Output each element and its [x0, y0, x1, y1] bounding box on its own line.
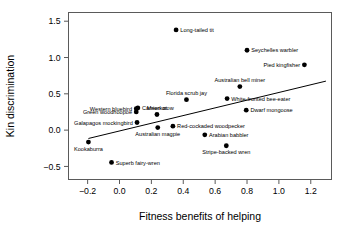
data-point: [225, 96, 230, 101]
data-point: [155, 112, 160, 117]
data-point: [202, 132, 207, 137]
data-point-label: Australian magpie: [135, 131, 180, 137]
x-tick-label: 0.4: [177, 186, 189, 196]
data-point-label: Stripe-backed wren: [202, 149, 250, 155]
y-tick-label: 0.5: [48, 89, 60, 99]
data-point-label: Long-tailed tit: [180, 27, 214, 33]
x-axis-label: Fitness benefits of helping: [139, 210, 261, 222]
data-point: [184, 97, 189, 102]
data-point-label: White-fronted bee-eater: [231, 96, 290, 102]
data-point-label: Green woodhoopoe: [83, 109, 132, 115]
data-point-label: Seychelles warbler: [251, 47, 298, 53]
data-point: [237, 84, 242, 89]
data-point-label: Pied kingfisher: [263, 62, 300, 68]
y-axis-label: Kin discrimination: [4, 55, 16, 137]
data-point: [135, 120, 140, 125]
data-point: [224, 143, 229, 148]
data-point-label: Dwarf mongoose: [250, 107, 292, 113]
y-tick-label: 1.0: [48, 53, 60, 63]
x-tick-label: 0.0: [113, 186, 125, 196]
data-point-label: Arabian babbler: [209, 132, 249, 138]
x-tick-label: 1.0: [273, 186, 285, 196]
data-point: [174, 28, 179, 33]
data-point: [134, 110, 139, 115]
y-tick-label: −0.5: [43, 162, 60, 172]
data-point: [109, 160, 114, 165]
data-point-label: Galapagos mockingbird: [74, 120, 133, 126]
y-tick-label: 1.5: [48, 16, 60, 26]
x-tick-label: 0.8: [241, 186, 253, 196]
data-point-label: Kookaburra: [74, 146, 104, 152]
data-point: [302, 62, 307, 67]
x-tick-label: 0.2: [145, 186, 157, 196]
data-point-label: Superb fairy-wren: [116, 160, 160, 166]
x-tick-label: −0.2: [79, 186, 96, 196]
data-point: [245, 48, 250, 53]
data-point: [155, 125, 160, 130]
data-point-label: Red-cockaded woodpecker: [177, 123, 245, 129]
data-point-label: Florida scrub jay: [166, 90, 207, 96]
data-point: [244, 108, 249, 113]
y-tick-label: 0.0: [48, 125, 60, 135]
x-tick-label: 0.6: [209, 186, 221, 196]
data-point: [171, 124, 176, 129]
scatter-chart: −0.20.00.20.40.60.81.01.2 −0.50.00.51.01…: [0, 0, 360, 228]
data-point-label: Australian bell miner: [215, 77, 266, 83]
x-tick-label: 1.2: [305, 186, 317, 196]
data-point: [86, 140, 91, 145]
data-point-label: Meerkat: [147, 105, 168, 111]
